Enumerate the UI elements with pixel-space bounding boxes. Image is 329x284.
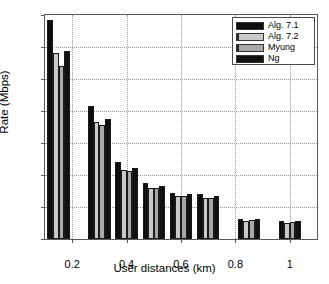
legend-label: Myung [268, 43, 295, 52]
legend-label: Alg. 7.1 [268, 21, 299, 30]
bar-3-4 [187, 194, 193, 239]
bar-3-3 [159, 186, 165, 239]
legend-swatch-icon [236, 44, 264, 52]
bar-3-5 [214, 196, 220, 239]
gridline-vertical [72, 15, 73, 239]
legend-item-0: Alg. 7.1 [236, 20, 311, 31]
x-axis-tick [290, 239, 291, 243]
x-axis-title: User distances (km) [0, 262, 329, 274]
legend-swatch-icon [236, 33, 264, 41]
y-axis-tick [41, 207, 45, 208]
y-axis-title: Rate (Mbps) [0, 42, 10, 162]
x-axis-tick [127, 239, 128, 243]
y-axis-tick [41, 239, 45, 240]
chart-legend: Alg. 7.1Alg. 7.2MyungNg [232, 17, 315, 65]
legend-item-2: Myung [236, 42, 311, 53]
y-axis-tick [41, 79, 45, 80]
y-axis-tick [41, 175, 45, 176]
x-axis-tick [235, 239, 236, 243]
y-axis-tick [41, 111, 45, 112]
y-axis-tick [41, 143, 45, 144]
legend-label: Alg. 7.2 [268, 32, 299, 41]
bar-3-1 [105, 119, 111, 239]
x-axis-tick [72, 239, 73, 243]
legend-label: Ng [268, 54, 280, 63]
figure-canvas: 012345670.20.40.60.81 Rate (Mbps) User d… [0, 0, 329, 284]
y-axis-tick [41, 15, 45, 16]
legend-item-1: Alg. 7.2 [236, 31, 311, 42]
legend-swatch-icon [236, 22, 264, 30]
bar-3-2 [132, 168, 138, 239]
legend-item-3: Ng [236, 53, 311, 64]
bar-3-7 [295, 221, 301, 239]
y-axis-tick [41, 47, 45, 48]
bar-3-6 [255, 219, 261, 239]
x-axis-tick [181, 239, 182, 243]
bar-3-0 [64, 51, 70, 239]
legend-swatch-icon [236, 55, 264, 63]
